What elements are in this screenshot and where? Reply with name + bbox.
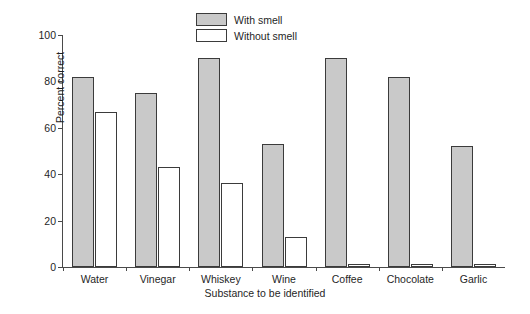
y-tick-label: 40 — [44, 168, 56, 180]
y-tick-mark — [58, 35, 62, 36]
x-axis-label: Substance to be identified — [0, 287, 530, 299]
y-tick-mark — [58, 174, 62, 175]
bar — [388, 77, 410, 267]
x-tick-label: Water — [81, 273, 109, 285]
x-axis-line — [62, 267, 505, 268]
legend-label-with-smell: With smell — [234, 14, 282, 26]
bar-chart-figure: With smell Without smell 020406080100 Wa… — [0, 0, 530, 314]
bar — [135, 93, 157, 267]
bar — [451, 146, 473, 267]
y-tick-mark — [58, 221, 62, 222]
bar — [72, 77, 94, 267]
y-tick-label: 60 — [44, 122, 56, 134]
legend-swatch-with-smell — [196, 13, 227, 26]
x-tick-label: Wine — [272, 273, 296, 285]
x-tick-label: Whiskey — [201, 273, 241, 285]
x-tick-label: Coffee — [332, 273, 363, 285]
y-tick-mark — [58, 267, 62, 268]
y-tick-label: 100 — [38, 29, 56, 41]
plot-area: 020406080100 WaterVinegarWhiskeyWineCoff… — [62, 35, 505, 267]
x-tick-mark — [252, 267, 253, 271]
bars-layer — [63, 35, 505, 267]
x-tick-label: Vinegar — [140, 273, 176, 285]
legend-item-with-smell: With smell — [196, 13, 297, 26]
bar — [325, 58, 347, 267]
bar — [95, 112, 117, 267]
x-tick-mark — [442, 267, 443, 271]
x-tick-mark — [63, 267, 64, 271]
x-tick-mark — [379, 267, 380, 271]
x-tick-mark — [316, 267, 317, 271]
y-tick-label: 0 — [50, 261, 56, 273]
bar — [474, 264, 496, 267]
y-axis-label: Percent correct — [54, 52, 66, 123]
x-tick-label: Garlic — [460, 273, 487, 285]
bar — [198, 58, 220, 267]
x-tick-mark — [126, 267, 127, 271]
y-tick-mark — [58, 128, 62, 129]
bar — [158, 167, 180, 267]
bar — [348, 264, 370, 267]
x-tick-label: Chocolate — [387, 273, 434, 285]
y-tick-label: 20 — [44, 215, 56, 227]
x-tick-mark — [189, 267, 190, 271]
bar — [221, 183, 243, 267]
bar — [262, 144, 284, 267]
bar — [411, 264, 433, 267]
bar — [285, 237, 307, 267]
